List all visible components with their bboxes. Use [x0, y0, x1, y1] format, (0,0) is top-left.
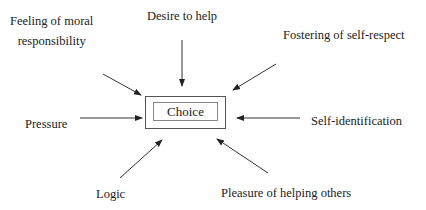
arrow-moral	[103, 74, 141, 95]
label-moral-responsibility: Feeling of moral responsibility	[10, 14, 93, 49]
choice-label: Choice	[167, 104, 204, 120]
choice-inner-box: Choice	[153, 102, 218, 121]
arrow-respect	[233, 64, 276, 90]
label-desire-to-help: Desire to help	[147, 9, 217, 24]
label-logic: Logic	[96, 187, 125, 202]
arrow-pleasure	[217, 139, 268, 173]
label-pleasure-of-helping: Pleasure of helping others	[221, 186, 351, 201]
label-moral-line1: Feeling of moral	[10, 14, 93, 29]
label-fostering-self-respect: Fostering of self-respect	[283, 28, 405, 43]
arrow-logic	[120, 140, 162, 178]
label-self-identification: Self-identification	[311, 114, 402, 129]
label-pressure: Pressure	[25, 117, 67, 132]
label-moral-line2: responsibility	[10, 34, 93, 49]
